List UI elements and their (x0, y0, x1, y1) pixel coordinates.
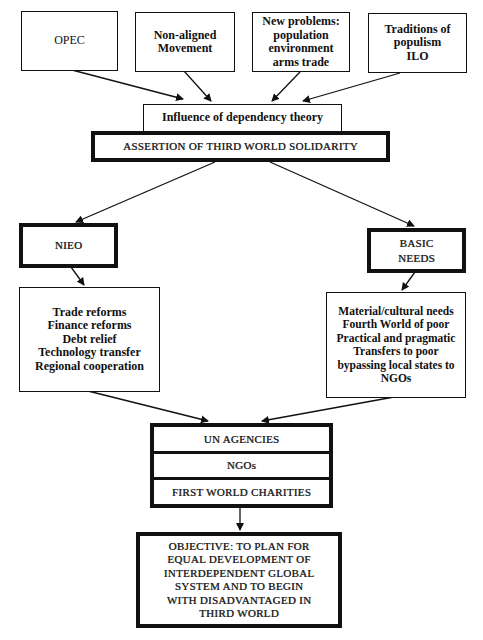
basic-needs-box: BASIC NEEDS (367, 228, 466, 273)
source-text-line: Movement (158, 42, 213, 56)
agent-row-un-agencies: UN AGENCIES (154, 427, 329, 451)
basic-needs-item: Transfers to poor (353, 345, 438, 359)
nieo-item: Technology transfer (38, 346, 141, 360)
source-opec-line: OPEC (54, 34, 85, 48)
nieo-item: Trade reforms (53, 306, 127, 320)
arrow-nieo-list-to-agents (88, 391, 208, 421)
arrow-basic-needs-to-list (402, 272, 415, 290)
basic-needs-title-line: BASIC (400, 236, 434, 251)
agent-label: UN AGENCIES (204, 432, 280, 447)
source-box-populism: Traditions of populism ILO (368, 13, 467, 73)
objective-line: INTERDEPENDENT GLOBAL (164, 567, 315, 581)
source-box-opec: OPEC (21, 11, 118, 71)
arrow-nieo-to-list (71, 267, 84, 285)
arrow-assertion-to-nieo (76, 162, 215, 222)
basic-needs-item: bypassing local states to (337, 359, 454, 373)
arrow-populism-to-influence (303, 73, 400, 101)
nieo-list-box: Trade reforms Finance reforms Debt relie… (19, 287, 160, 392)
basic-needs-item: Material/cultural needs (338, 305, 453, 319)
objective-line: OBJECTIVE: TO PLAN FOR (169, 540, 310, 554)
arrow-nonaligned-to-influence (184, 71, 211, 101)
objective-box: OBJECTIVE: TO PLAN FOR EQUAL DEVELOPMENT… (136, 532, 342, 628)
source-text-line: population (273, 29, 328, 43)
nieo-item: Regional cooperation (35, 360, 144, 374)
nieo-item: Debt relief (62, 333, 116, 347)
agent-label: FIRST WORLD CHARITIES (172, 485, 311, 500)
source-box-new-problems: New problems: population environment arm… (252, 12, 350, 72)
source-text-line: New problems: (262, 15, 339, 29)
influence-label: Influence of dependency theory (162, 111, 323, 125)
arrow-assertion-to-basic-needs (270, 162, 414, 226)
nieo-title: NIEO (55, 238, 82, 253)
basic-needs-item: Practical and pragmatic (337, 332, 456, 346)
arrow-opec-to-influence (72, 70, 183, 99)
source-box-non-aligned: Non-aligned Movement (135, 12, 235, 72)
source-text-line: environment (268, 42, 333, 56)
assertion-box: ASSERTION OF THIRD WORLD SOLIDARITY (91, 131, 390, 162)
source-text-line: ILO (406, 50, 428, 64)
source-text-line: Non-aligned (154, 29, 217, 43)
objective-line: THIRD WORLD (199, 607, 279, 621)
assertion-label: ASSERTION OF THIRD WORLD SOLIDARITY (123, 139, 358, 154)
basic-needs-title-line: NEEDS (398, 251, 435, 266)
arrow-basic-list-to-agents (262, 397, 394, 421)
basic-needs-item: NGOs (381, 372, 412, 386)
objective-line: SYSTEM AND TO BEGIN (175, 580, 303, 594)
agent-row-ngos: NGOs (154, 451, 329, 478)
nieo-box: NIEO (19, 223, 118, 268)
agent-label: NGOs (227, 458, 256, 473)
objective-line: EQUAL DEVELOPMENT OF (167, 553, 311, 567)
nieo-item: Finance reforms (47, 319, 131, 333)
source-text-line: Traditions of (384, 23, 450, 37)
agent-row-first-world-charities: FIRST WORLD CHARITIES (154, 477, 329, 504)
basic-needs-list-box: Material/cultural needs Fourth World of … (326, 292, 466, 398)
source-text-line: arms trade (273, 56, 329, 70)
source-text-line: populism (394, 36, 441, 50)
arrow-newproblems-to-influence (272, 72, 300, 101)
objective-line: WITH DISADVANTAGED IN (167, 594, 312, 608)
influence-box: Influence of dependency theory (143, 104, 342, 132)
basic-needs-item: Fourth World of poor (343, 318, 450, 332)
agents-stack: UN AGENCIES NGOs FIRST WORLD CHARITIES (150, 423, 333, 508)
